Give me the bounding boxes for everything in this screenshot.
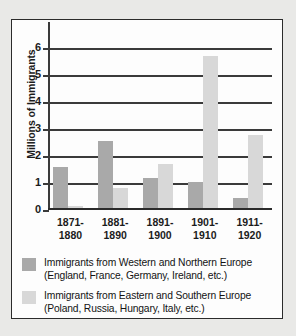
- y-tick-mark: [43, 210, 49, 212]
- y-tick-mark: [43, 129, 49, 131]
- gridline: [48, 48, 272, 50]
- y-tick-mark: [43, 102, 49, 104]
- x-axis-line: [48, 208, 272, 210]
- chart-legend: Immigrants from Western and Northern Eur…: [22, 256, 280, 322]
- legend-line-1: Immigrants from Eastern and Southern Eur…: [44, 289, 251, 302]
- x-tick-label: 1911-1920: [227, 216, 272, 241]
- y-tick-mark: [43, 156, 49, 158]
- y-tick-label: 4: [25, 95, 41, 107]
- x-axis-labels: 1871-18801881-18901891-19001901-19101911…: [48, 216, 272, 252]
- x-tick-label-line: 1910: [182, 229, 227, 242]
- x-tick-label-line: 1900: [138, 229, 183, 242]
- legend-line-2: (Poland, Russia, Hungary, Italy, etc.): [44, 302, 251, 315]
- y-tick-mark: [43, 183, 49, 185]
- legend-label-western-northern: Immigrants from Western and Northern Eur…: [44, 256, 252, 282]
- y-tick-mark: [43, 48, 49, 50]
- y-axis-line: [48, 22, 50, 210]
- bar: [143, 178, 158, 210]
- y-tick-label: 6: [25, 41, 41, 53]
- bar: [98, 141, 113, 210]
- bar: [53, 167, 68, 210]
- legend-label-eastern-southern: Immigrants from Eastern and Southern Eur…: [44, 289, 251, 315]
- y-tick-label: 2: [25, 149, 41, 161]
- x-tick-label-line: 1901-: [182, 216, 227, 229]
- y-tick-label: 5: [25, 68, 41, 80]
- x-tick-label: 1881-1890: [93, 216, 138, 241]
- x-tick-label-line: 1890: [93, 229, 138, 242]
- x-tick-label-line: 1891-: [138, 216, 183, 229]
- x-tick-label-line: 1920: [227, 229, 272, 242]
- legend-swatch-eastern-southern: [22, 291, 36, 304]
- legend-swatch-western-northern: [22, 258, 36, 271]
- legend-line-2: (England, France, Germany, Ireland, etc.…: [44, 269, 252, 282]
- plot-axes: 0123456: [48, 32, 272, 210]
- y-tick-mark: [43, 75, 49, 77]
- x-tick-label-line: 1881-: [93, 216, 138, 229]
- chart-page: Millions of Immigrants 0123456 1871-1880…: [0, 0, 296, 336]
- bar: [113, 188, 128, 210]
- y-tick-label: 3: [25, 122, 41, 134]
- gridline: [48, 129, 272, 131]
- legend-item: Immigrants from Western and Northern Eur…: [22, 256, 280, 282]
- gridline: [48, 156, 272, 158]
- plot-region: Millions of Immigrants 0123456 1871-1880…: [12, 20, 282, 252]
- x-tick-label-line: 1880: [48, 229, 93, 242]
- legend-item: Immigrants from Eastern and Southern Eur…: [22, 289, 280, 315]
- y-tick-label: 0: [25, 203, 41, 215]
- gridline: [48, 75, 272, 77]
- bar: [158, 164, 173, 210]
- bar: [203, 56, 218, 210]
- gridline: [48, 102, 272, 104]
- x-tick-label: 1901-1910: [182, 216, 227, 241]
- figure-container: Millions of Immigrants 0123456 1871-1880…: [11, 19, 283, 319]
- legend-line-1: Immigrants from Western and Northern Eur…: [44, 256, 252, 269]
- x-tick-label-line: 1871-: [48, 216, 93, 229]
- x-tick-label-line: 1911-: [227, 216, 272, 229]
- y-tick-label: 1: [25, 176, 41, 188]
- x-tick-label: 1871-1880: [48, 216, 93, 241]
- bar: [188, 182, 203, 210]
- bar: [248, 135, 263, 211]
- x-tick-label: 1891-1900: [138, 216, 183, 241]
